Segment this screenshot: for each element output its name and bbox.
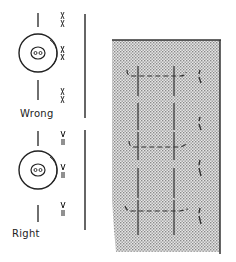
cross-stitch-marks <box>61 12 64 103</box>
diagram-canvas: Wrong Right <box>0 0 236 262</box>
wrong-label: Wrong <box>20 108 54 119</box>
fabric-swatch <box>112 40 220 252</box>
parallel-stitch-marks <box>61 131 65 216</box>
diagram-svg <box>0 0 236 262</box>
right-panel <box>19 130 85 230</box>
fabric-panel <box>112 40 221 254</box>
right-label: Right <box>12 228 40 239</box>
button-icon <box>19 151 57 189</box>
button-icon <box>19 34 57 72</box>
wrong-panel <box>19 12 85 118</box>
